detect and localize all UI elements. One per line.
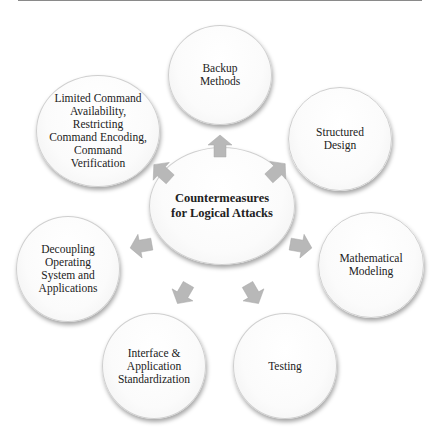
node-decoupling: Decoupling Operating System and Applicat… (16, 216, 120, 322)
node-label: Structured Design (316, 126, 364, 152)
node-backup-methods: Backup Methods (168, 25, 272, 125)
center-label: Countermeasures for Logical Attacks (171, 191, 273, 221)
node-interface-standardization: Interface & Application Standardization (102, 313, 206, 419)
node-testing: Testing (233, 313, 337, 419)
node-structured-design: Structured Design (288, 87, 392, 191)
node-mathematical-modeling: Mathematical Modeling (318, 212, 424, 318)
arrow-to-testing-icon (236, 277, 271, 311)
node-limited-command: Limited Command Availability, Restrictin… (36, 75, 160, 187)
arrow-to-modeling-icon (287, 231, 315, 261)
node-label: Backup Methods (200, 62, 240, 88)
arrow-to-decoupling-icon (127, 231, 155, 261)
arrow-to-backup-icon (207, 134, 233, 158)
node-label: Interface & Application Standardization (118, 347, 190, 386)
node-label: Mathematical Modeling (339, 252, 402, 278)
node-label: Decoupling Operating System and Applicat… (39, 243, 98, 295)
top-rule (18, 0, 422, 1)
node-label: Limited Command Availability, Restrictin… (49, 92, 147, 170)
arrow-to-interface-icon (166, 277, 201, 311)
node-label: Testing (268, 360, 302, 373)
